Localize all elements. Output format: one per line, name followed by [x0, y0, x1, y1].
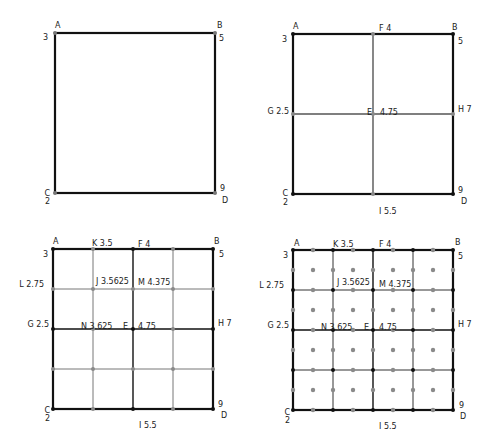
- grid-point: [291, 408, 295, 412]
- grid-point: [213, 191, 217, 195]
- grid-point: [411, 388, 415, 392]
- grid-point: [131, 407, 135, 411]
- grid-point: [451, 328, 455, 332]
- grid-point: [371, 248, 375, 252]
- point-label: A: [293, 22, 299, 31]
- grid-point: [351, 408, 355, 412]
- grid-point: [391, 348, 395, 352]
- grid-point: [371, 268, 375, 272]
- grid-point: [331, 408, 335, 412]
- grid-point: [451, 368, 455, 372]
- grid-point: [213, 31, 217, 35]
- grid-point: [311, 388, 315, 392]
- grid-point: [451, 308, 455, 312]
- grid-point: [451, 112, 455, 116]
- point-label: A: [53, 237, 59, 246]
- grid-point: [411, 408, 415, 412]
- grid-point: [411, 268, 415, 272]
- point-label: 2: [45, 197, 50, 206]
- grid-point: [51, 367, 55, 371]
- grid-point: [171, 407, 175, 411]
- grid-point: [351, 288, 355, 292]
- grid-point: [371, 408, 375, 412]
- point-label: L 2.75: [19, 280, 44, 289]
- point-label: 9: [218, 400, 223, 409]
- grid-point: [431, 408, 435, 412]
- grid-point: [351, 368, 355, 372]
- grid-point: [331, 288, 335, 292]
- grid-point: [451, 32, 455, 36]
- grid-point: [431, 268, 435, 272]
- point-label: 2: [283, 198, 288, 207]
- grid-point: [291, 368, 295, 372]
- grid-point: [53, 191, 57, 195]
- point-label: 9: [220, 184, 225, 193]
- grid-point: [451, 268, 455, 272]
- point-label: 9: [459, 401, 464, 410]
- grid-point: [91, 367, 95, 371]
- grid-point: [171, 247, 175, 251]
- point-label: K 3.5: [333, 240, 354, 249]
- grid-point: [451, 408, 455, 412]
- grid-point: [51, 247, 55, 251]
- grid-point: [51, 407, 55, 411]
- point-label: F 4: [379, 240, 391, 249]
- point-label: 3: [43, 250, 48, 259]
- grid-point: [211, 327, 215, 331]
- grid-point: [351, 388, 355, 392]
- point-label: 4.75: [138, 322, 156, 331]
- point-label: A: [294, 239, 300, 248]
- point-label: K 3.5: [92, 239, 113, 248]
- grid-point: [311, 248, 315, 252]
- grid-point: [391, 268, 395, 272]
- point-label: J 3.5625: [95, 277, 129, 286]
- grid-point: [291, 288, 295, 292]
- point-label: F 4: [138, 240, 150, 249]
- grid-point: [411, 368, 415, 372]
- grid-point: [171, 367, 175, 371]
- panel-step4-square: A3K 3.5F 4B5L 2.75J 3.5625M 4.375G 2.5N …: [259, 238, 471, 431]
- point-label: 9: [458, 186, 463, 195]
- grid-point: [311, 308, 315, 312]
- grid-point: [371, 192, 375, 196]
- grid-point: [331, 388, 335, 392]
- grid-point: [371, 328, 375, 332]
- grid-point: [431, 248, 435, 252]
- panel-step3-square: A3K 3.5F 4B5L 2.75J 3.5625M 4.375G 2.5N …: [19, 237, 231, 430]
- grid-point: [331, 348, 335, 352]
- point-label: 5: [219, 250, 224, 259]
- point-label: 3: [43, 33, 48, 42]
- grid-point: [391, 308, 395, 312]
- grid-point: [351, 348, 355, 352]
- grid-point: [311, 328, 315, 332]
- grid-point: [371, 288, 375, 292]
- grid-point: [411, 328, 415, 332]
- point-label: B: [455, 238, 461, 247]
- point-label: G 2.5: [28, 320, 49, 329]
- point-label: M 4.375: [379, 280, 411, 289]
- point-label: G 2.5: [268, 107, 289, 116]
- point-label: F 4: [379, 24, 391, 33]
- grid-point: [331, 308, 335, 312]
- point-label: B: [452, 23, 458, 32]
- point-label: 2: [285, 416, 290, 425]
- grid-point: [411, 348, 415, 352]
- grid-point: [431, 308, 435, 312]
- grid-point: [211, 367, 215, 371]
- grid-point: [171, 287, 175, 291]
- grid-point: [391, 368, 395, 372]
- grid-point: [451, 192, 455, 196]
- grid-point: [431, 348, 435, 352]
- grid-point: [431, 328, 435, 332]
- grid-point: [291, 388, 295, 392]
- grid-point: [311, 408, 315, 412]
- grid-point: [391, 408, 395, 412]
- grid-point: [411, 248, 415, 252]
- grid-point: [53, 31, 57, 35]
- grid-point: [451, 288, 455, 292]
- outer-square: [55, 33, 215, 193]
- point-label: I 5.5: [379, 207, 397, 216]
- grid-point: [311, 288, 315, 292]
- grid-point: [311, 348, 315, 352]
- grid-point: [131, 287, 135, 291]
